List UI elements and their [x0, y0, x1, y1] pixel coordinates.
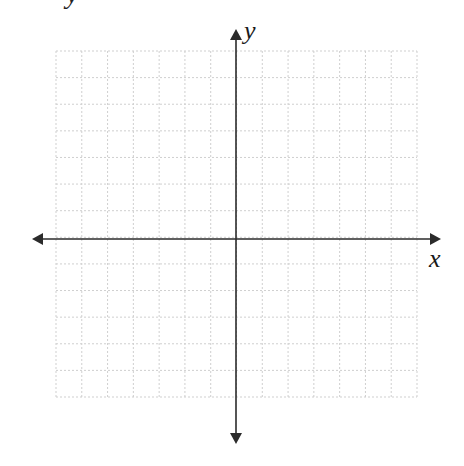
axes [32, 29, 441, 444]
coordinate-plane-figure: y y x [0, 0, 464, 466]
x-axis-left-arrow-icon [32, 233, 43, 245]
coordinate-plane [0, 0, 464, 466]
y-axis-up-arrow-icon [230, 29, 242, 40]
x-axis-label: x [429, 246, 441, 272]
y-axis-down-arrow-icon [230, 433, 242, 444]
y-axis-label: y [244, 18, 256, 44]
